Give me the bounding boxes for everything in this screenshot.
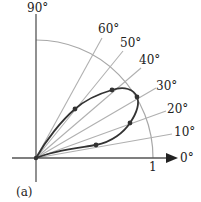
ray-label-10: 10° [174,125,195,139]
ray-label-60: 60° [98,22,119,36]
point-51deg [73,107,78,112]
y-axis-label: 90° [27,1,48,15]
point-12deg [94,143,99,148]
point-42deg [110,88,115,93]
ray-label-30: 30° [156,79,177,93]
ray-label-50: 50° [120,36,141,50]
point-31deg [135,95,140,100]
polar-diagram: 90° 0° 1 10° 20° 30° 40° 50° 60° (a) [0,0,201,202]
panel-label: (a) [16,185,33,199]
ray-label-40: 40° [139,53,160,67]
unit-label: 1 [149,160,157,174]
polar-curve [36,88,138,158]
x-axis-label: 0° [180,151,194,165]
x-axis-arrow-icon [166,153,178,163]
ray-label-20: 20° [167,102,188,116]
origin-point [34,156,38,160]
ray-40 [36,68,141,158]
point-20deg [128,121,133,126]
